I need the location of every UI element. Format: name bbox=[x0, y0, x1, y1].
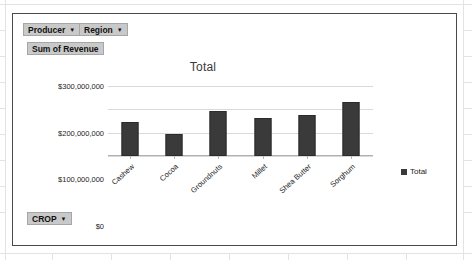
grid-line-vertical bbox=[347, 253, 348, 260]
grid-line-horizontal bbox=[463, 186, 472, 187]
bar-group: Groundnuts bbox=[196, 86, 240, 156]
plot-area: $0$100,000,000$200,000,000$300,000,000 C… bbox=[108, 86, 373, 156]
grid-line-horizontal bbox=[463, 82, 472, 83]
filter-button-producer-label: Producer bbox=[28, 24, 65, 36]
grid-line-horizontal bbox=[0, 253, 472, 254]
bar-group: Cocoa bbox=[152, 86, 196, 156]
x-axis-category-label: Groundnuts bbox=[189, 162, 224, 195]
grid-line-horizontal bbox=[0, 82, 5, 83]
grid-line-vertical bbox=[111, 253, 112, 260]
x-axis-tick bbox=[130, 156, 131, 159]
x-axis-tick bbox=[307, 156, 308, 159]
grid-line-vertical bbox=[5, 0, 6, 260]
spreadsheet-background: Producer ▼ Region ▼ Sum of Revenue CROP … bbox=[0, 0, 472, 260]
chevron-down-icon: ▼ bbox=[61, 216, 67, 222]
grid-line-horizontal bbox=[0, 108, 5, 109]
y-axis-tick-label: $100,000,000 bbox=[58, 175, 104, 184]
bar-group: Cashew bbox=[108, 86, 152, 156]
grid-line-horizontal bbox=[0, 56, 5, 57]
x-axis-category-label: Shea Butter bbox=[277, 162, 312, 195]
bar-group: Shea Butter bbox=[285, 86, 329, 156]
axis-field-button-label: CROP bbox=[32, 213, 57, 225]
grid-line-vertical bbox=[288, 253, 289, 260]
grid-line-horizontal bbox=[463, 30, 472, 31]
chevron-down-icon: ▼ bbox=[69, 27, 75, 33]
y-axis-tick-label: $200,000,000 bbox=[58, 128, 104, 137]
filter-button-producer[interactable]: Producer ▼ bbox=[23, 23, 80, 36]
chart-legend[interactable]: Total bbox=[401, 167, 427, 176]
bar-series-total: CashewCocoaGroundnutsMilletShea ButterSo… bbox=[108, 86, 373, 156]
grid-line-horizontal bbox=[463, 56, 472, 57]
x-axis-category-label: Millet bbox=[250, 162, 269, 180]
legend-label-total: Total bbox=[410, 167, 427, 176]
grid-line-horizontal bbox=[0, 30, 5, 31]
x-axis-tick bbox=[351, 156, 352, 159]
grid-line-horizontal bbox=[0, 134, 5, 135]
grid-line-vertical bbox=[463, 0, 464, 260]
bar-group: Millet bbox=[241, 86, 285, 156]
bar[interactable] bbox=[254, 118, 271, 157]
grid-line-vertical bbox=[406, 253, 407, 260]
bar-group: Sorghum bbox=[329, 86, 373, 156]
bar-chart[interactable]: Total $0$100,000,000$200,000,000$300,000… bbox=[13, 60, 458, 210]
grid-line-horizontal bbox=[463, 160, 472, 161]
chevron-down-icon: ▼ bbox=[117, 27, 123, 33]
bar[interactable] bbox=[342, 102, 359, 156]
x-axis-category-label: Cashew bbox=[110, 162, 136, 187]
filter-button-region-label: Region bbox=[84, 24, 113, 36]
axis-field-button-crop[interactable]: CROP ▼ bbox=[27, 212, 72, 225]
x-axis-tick bbox=[174, 156, 175, 159]
grid-line-vertical bbox=[229, 253, 230, 260]
y-axis-tick-label: $300,000,000 bbox=[58, 82, 104, 91]
pivot-chart-panel[interactable]: Producer ▼ Region ▼ Sum of Revenue CROP … bbox=[12, 13, 457, 246]
bar[interactable] bbox=[166, 134, 183, 156]
y-axis-tick-label: $0 bbox=[96, 222, 104, 231]
value-field-button-sum-of-revenue[interactable]: Sum of Revenue bbox=[27, 42, 104, 55]
x-axis-tick bbox=[263, 156, 264, 159]
chart-title: Total bbox=[13, 60, 393, 74]
bar[interactable] bbox=[298, 115, 315, 156]
x-axis-category-label: Cocoa bbox=[158, 162, 180, 183]
bar[interactable] bbox=[210, 111, 227, 157]
grid-line-horizontal bbox=[0, 212, 5, 213]
legend-swatch-total bbox=[401, 169, 407, 175]
grid-line-horizontal bbox=[463, 212, 472, 213]
grid-line-vertical bbox=[52, 253, 53, 260]
bar[interactable] bbox=[122, 122, 139, 156]
grid-line-horizontal bbox=[0, 186, 5, 187]
grid-line-vertical bbox=[170, 253, 171, 260]
grid-line-horizontal bbox=[0, 4, 472, 5]
grid-line-horizontal bbox=[463, 108, 472, 109]
gridline: $0 bbox=[108, 156, 373, 157]
x-axis-tick bbox=[218, 156, 219, 159]
value-field-button-label: Sum of Revenue bbox=[32, 43, 99, 55]
x-axis-category-label: Sorghum bbox=[328, 162, 357, 189]
grid-line-horizontal bbox=[0, 160, 5, 161]
filter-button-region[interactable]: Region ▼ bbox=[79, 23, 128, 36]
grid-line-horizontal bbox=[463, 134, 472, 135]
